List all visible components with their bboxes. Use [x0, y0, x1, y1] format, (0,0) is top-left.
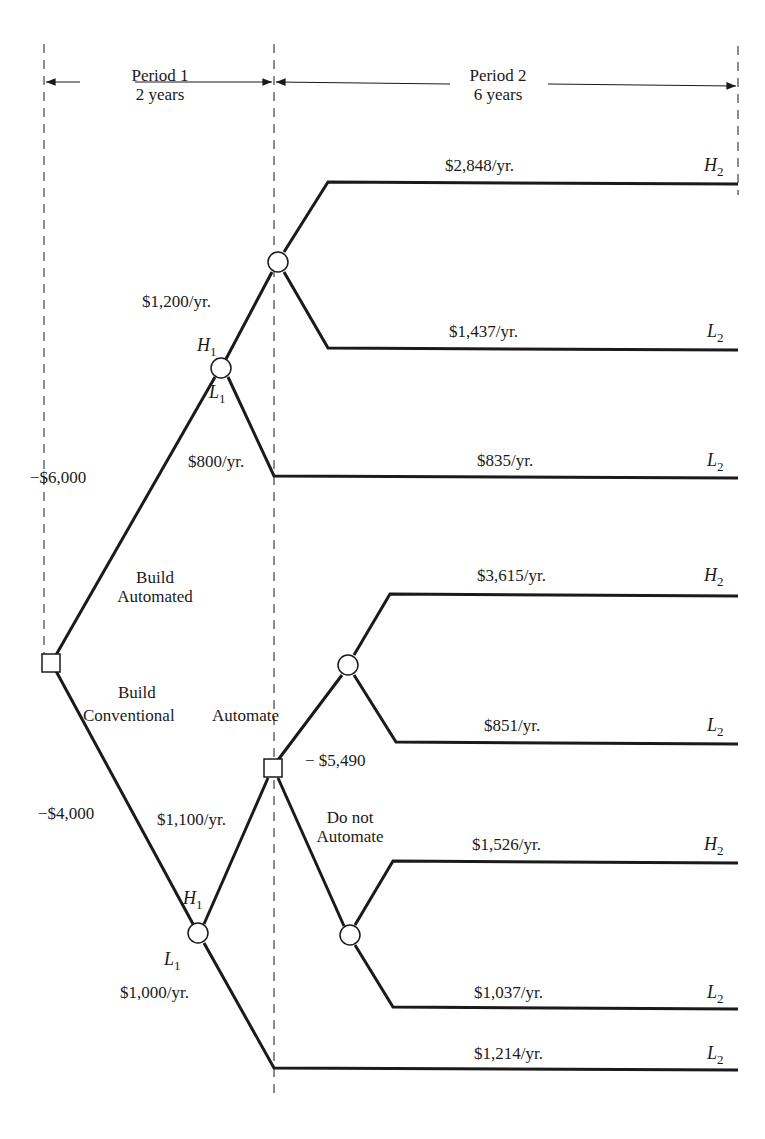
state-label-p2: L2 — [707, 1044, 724, 1069]
decision-do-not-automate: Do not Automate — [305, 808, 395, 846]
outcome-p2-value: $1,037/yr. — [474, 983, 543, 1002]
outcome-conventional-high-p1: $1,100/yr. — [157, 810, 226, 829]
chance-node-automated-high-period2 — [268, 252, 288, 272]
outcome-automated-low-p1: $800/yr. — [188, 452, 244, 471]
period2-header: Period 2 6 years — [448, 66, 548, 104]
period1-duration: 2 years — [110, 85, 210, 104]
period2-title: Period 2 — [448, 66, 548, 85]
decision-automate: Automate — [212, 706, 279, 725]
decision-build-automated: Build Automated — [100, 568, 210, 606]
chance-node-not-automate-period2 — [340, 925, 360, 945]
state-h1-automated: H1 — [197, 336, 217, 361]
period2-duration: 6 years — [448, 85, 548, 104]
decision-build-conventional-line2: Conventional — [83, 706, 175, 725]
cost-build-automated: −$6,000 — [30, 468, 86, 487]
outcome-conventional-low-p1: $1,000/yr. — [120, 983, 189, 1002]
outcome-automated-high-p1: $1,200/yr. — [142, 292, 211, 311]
state-label-p2: H2 — [704, 835, 724, 860]
outcome-p2-value: $851/yr. — [484, 716, 540, 735]
chance-node-conventional-period1 — [188, 923, 208, 943]
cost-build-conventional: −$4,000 — [38, 804, 94, 823]
state-l1-conventional: L1 — [164, 950, 181, 975]
state-label-p2: H2 — [704, 156, 724, 181]
state-label-p2: L2 — [707, 983, 724, 1008]
state-label-p2: H2 — [704, 566, 724, 591]
outcome-p2-value: $2,848/yr. — [445, 156, 514, 175]
decision-node-root — [42, 654, 60, 672]
state-label-p2: L2 — [707, 451, 724, 476]
tree-branches — [56, 182, 738, 1070]
chance-node-automate-period2 — [338, 655, 358, 675]
decision-build-conventional-line1: Build — [118, 683, 156, 702]
outcome-p2-value: $1,526/yr. — [472, 835, 541, 854]
state-label-p2: L2 — [707, 322, 724, 347]
period1-header: Period 1 2 years — [110, 66, 210, 104]
outcome-p2-value: $835/yr. — [477, 451, 533, 470]
chance-node-automated-period1 — [211, 358, 231, 378]
decision-node-automate — [264, 759, 282, 777]
outcome-p2-value: $3,615/yr. — [477, 566, 546, 585]
cost-automate: − $5,490 — [305, 751, 366, 770]
state-l1-automated: L1 — [209, 383, 226, 408]
outcome-p2-value: $1,214/yr. — [474, 1044, 543, 1063]
state-h1-conventional: H1 — [183, 889, 203, 914]
period1-title: Period 1 — [110, 66, 210, 85]
outcome-p2-value: $1,437/yr. — [449, 322, 518, 341]
state-label-p2: L2 — [707, 716, 724, 741]
